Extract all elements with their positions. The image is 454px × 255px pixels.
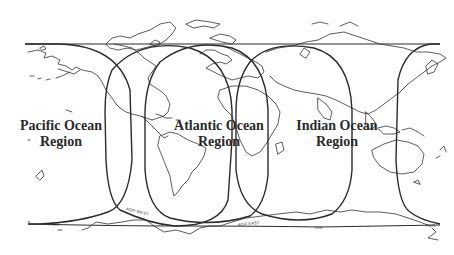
label-por-east: POR <box>426 223 435 228</box>
label-aor-west: AOR WEST <box>126 206 150 216</box>
north-america-coast <box>28 44 170 120</box>
pacific-ocean-region-label: Pacific Ocean Region <box>6 118 116 150</box>
atlantic-label-line2: Region <box>165 134 273 150</box>
indian-ocean-region-label: Indian Ocean Region <box>287 118 387 150</box>
indian-label-line2: Region <box>287 134 387 150</box>
label-ior: IOR <box>315 225 323 230</box>
atlantic-label-line1: Atlantic Ocean <box>165 118 273 134</box>
pacific-label-line2: Region <box>6 134 116 150</box>
por-east-footprint <box>396 44 440 224</box>
atlantic-ocean-region-label: Atlantic Ocean Region <box>165 118 273 150</box>
label-por-west: POR <box>50 222 59 227</box>
indian-label-line1: Indian Ocean <box>287 118 387 134</box>
pacific-label-line1: Pacific Ocean <box>6 118 116 134</box>
